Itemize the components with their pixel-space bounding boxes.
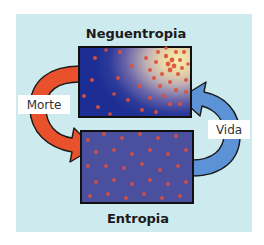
vida-label: Vida <box>208 120 250 139</box>
morte-label: Morte <box>18 95 70 114</box>
negentropy-particles <box>82 46 190 116</box>
entropy-particles <box>86 132 188 200</box>
entropy-title: Entropia <box>80 211 196 226</box>
